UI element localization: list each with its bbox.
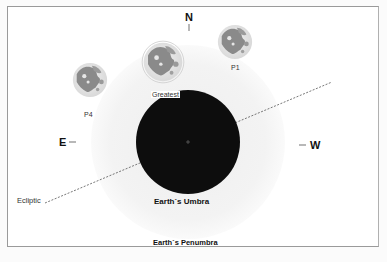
moon-greatest-label: Greatest — [151, 91, 180, 98]
west-label: W — [310, 139, 320, 151]
moon-p1-label: P1 — [231, 64, 240, 71]
east-label: E — [59, 136, 66, 148]
ecliptic-label: Ecliptic — [17, 196, 41, 205]
moon-p1 — [218, 25, 252, 59]
moon-p4-label: P4 — [84, 111, 93, 118]
north-label: N — [185, 11, 193, 23]
umbra-label: Earth`s Umbra — [154, 197, 209, 206]
moon-greatest — [142, 41, 184, 83]
eclipse-diagram — [0, 0, 387, 262]
penumbra-label: Earth`s Penumbra — [153, 238, 218, 247]
moon-p4 — [73, 63, 107, 97]
